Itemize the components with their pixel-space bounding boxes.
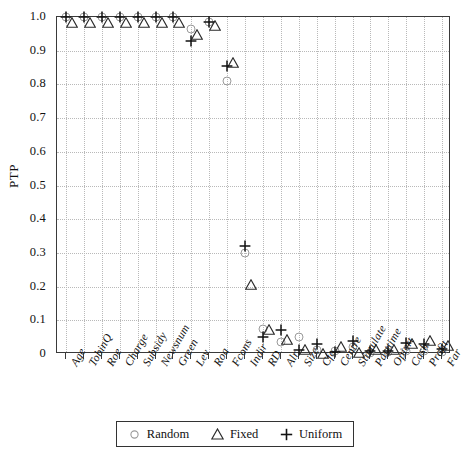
y-tick-label: 0.5 [30,178,46,191]
gridline-horizontal [57,253,449,254]
gridline-vertical [442,17,443,352]
x-tick [101,353,102,359]
y-tick-label: 0.2 [30,279,46,292]
gridline-vertical [66,17,67,352]
x-tick [137,353,138,359]
plot-area [56,16,450,353]
gridline-vertical [299,17,300,352]
y-tick-label: 0.8 [30,77,46,90]
gridline-vertical [156,17,157,352]
gridline-horizontal [57,84,449,85]
gridline-vertical [388,17,389,352]
gridline-horizontal [57,186,449,187]
gridline-vertical [120,17,121,352]
gridline-vertical [406,17,407,352]
x-tick [441,353,442,359]
legend: RandomFixedUniform [116,421,354,447]
triangle-icon [211,428,224,441]
x-tick [119,353,120,359]
gridline-horizontal [57,320,449,321]
gridline-horizontal [57,287,449,288]
gridline-vertical [138,17,139,352]
legend-item[interactable]: Random [128,427,189,442]
gridline-vertical [335,17,336,352]
gridline-vertical [173,17,174,352]
gridline-vertical [245,17,246,352]
legend-label: Fixed [230,427,258,442]
gridline-vertical [102,17,103,352]
x-tick [83,353,84,359]
x-tick [262,353,263,359]
y-axis: 1.00.90.80.70.60.50.40.30.20.10 [0,0,56,369]
gridlines [57,17,449,352]
gridline-vertical [263,17,264,352]
x-tick [65,353,66,359]
gridline-vertical [209,17,210,352]
gridline-vertical [353,17,354,352]
y-tick-label: 0.9 [30,43,46,56]
y-tick-label: 0.1 [30,313,46,326]
legend-label: Random [147,427,189,442]
gridline-vertical [370,17,371,352]
chart-root: PTP 1.00.90.80.70.60.50.40.30.20.10 AgeT… [0,0,469,452]
x-tick [190,353,191,359]
x-tick [423,353,424,359]
gridline-horizontal [57,118,449,119]
y-tick-label: 0.4 [30,212,46,225]
gridline-vertical [317,17,318,352]
x-tick [280,353,281,359]
x-tick [369,353,370,359]
x-tick [298,353,299,359]
legend-label: Uniform [299,427,342,442]
circle-icon [128,428,141,441]
y-tick-label: 1.0 [30,10,46,23]
x-tick [334,353,335,359]
x-tick [208,353,209,359]
gridline-horizontal [57,152,449,153]
x-tick [226,353,227,359]
plus-icon [280,428,293,441]
x-tick [387,353,388,359]
legend-item[interactable]: Uniform [280,427,342,442]
gridline-horizontal [57,219,449,220]
x-tick [352,353,353,359]
y-tick-label: 0.7 [30,111,46,124]
gridline-vertical [281,17,282,352]
gridline-horizontal [57,51,449,52]
y-tick-label: 0 [40,347,46,360]
y-tick-label: 0.3 [30,246,46,259]
y-tick-label: 0.6 [30,145,46,158]
x-tick [172,353,173,359]
x-tick [316,353,317,359]
gridline-vertical [191,17,192,352]
x-tick [155,353,156,359]
x-tick [244,353,245,359]
gridline-vertical [424,17,425,352]
legend-item[interactable]: Fixed [211,427,258,442]
gridline-vertical [84,17,85,352]
gridline-vertical [227,17,228,352]
x-tick [405,353,406,359]
